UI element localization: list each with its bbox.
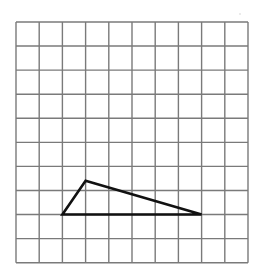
scan-speck — [239, 13, 240, 14]
grid-diagram — [0, 0, 254, 269]
grid-lines — [16, 22, 248, 263]
